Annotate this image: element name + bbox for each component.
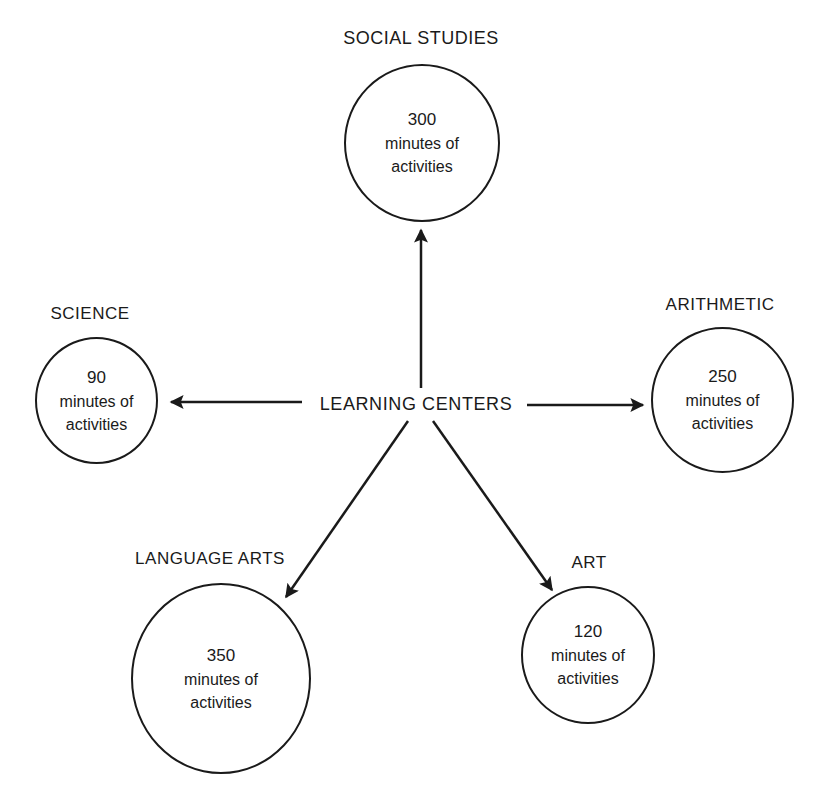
minutes-value: 90 bbox=[87, 366, 106, 390]
center-circle-language-arts: 350 minutes of activities bbox=[131, 583, 311, 774]
minutes-value: 250 bbox=[708, 365, 736, 389]
hub-label: LEARNING CENTERS bbox=[316, 393, 517, 415]
minutes-caption-line2: activities bbox=[557, 667, 618, 690]
center-circle-art: 120 minutes of activities bbox=[521, 586, 655, 724]
center-label-science: SCIENCE bbox=[50, 304, 129, 324]
arrow-to-language-arts bbox=[286, 421, 408, 597]
center-label-language-arts: LANGUAGE ARTS bbox=[135, 549, 285, 569]
arrow-to-art bbox=[433, 421, 552, 590]
center-circle-science: 90 minutes of activities bbox=[35, 337, 158, 464]
minutes-caption-line1: minutes of bbox=[60, 390, 134, 413]
minutes-caption-line2: activities bbox=[692, 412, 753, 435]
center-label-social-studies: SOCIAL STUDIES bbox=[343, 28, 498, 48]
minutes-caption-line1: minutes of bbox=[385, 132, 459, 155]
center-label-arithmetic: ARITHMETIC bbox=[666, 295, 775, 315]
learning-centers-diagram: LEARNING CENTERS SOCIAL STUDIES 300 minu… bbox=[0, 0, 825, 803]
minutes-value: 120 bbox=[574, 620, 602, 644]
minutes-caption-line1: minutes of bbox=[686, 389, 760, 412]
minutes-value: 350 bbox=[207, 644, 235, 668]
minutes-caption-line2: activities bbox=[66, 413, 127, 436]
center-circle-social-studies: 300 minutes of activities bbox=[344, 64, 500, 222]
minutes-caption-line2: activities bbox=[391, 155, 452, 178]
center-circle-arithmetic: 250 minutes of activities bbox=[651, 327, 794, 473]
minutes-caption-line1: minutes of bbox=[551, 644, 625, 667]
minutes-caption-line2: activities bbox=[190, 691, 251, 714]
center-label-art: ART bbox=[571, 553, 606, 573]
minutes-caption-line1: minutes of bbox=[184, 668, 258, 691]
minutes-value: 300 bbox=[408, 108, 436, 132]
